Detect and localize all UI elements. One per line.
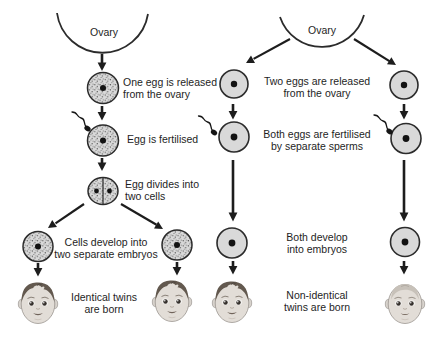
embryo-left-icon	[23, 232, 53, 262]
arrow-embryo-to-baby-left2	[173, 262, 182, 276]
step-both-eggs-fertilised-label: Both eggs are fertilised by separate spe…	[263, 128, 370, 152]
arrow-twocell-to-embryo-left	[48, 204, 84, 228]
egg1-released-icon	[220, 70, 248, 98]
twin-formation-diagram: Ovary Ovary One egg is released from the…	[0, 0, 444, 340]
egg-fertilised-icon	[88, 125, 119, 156]
two-cell-stage-icon	[88, 178, 118, 205]
arrow-ovary-to-egg-far-right	[354, 39, 396, 65]
arrow-egg-to-fertilised-far-right	[400, 104, 409, 120]
arrow-fertilised-to-embryo-mid	[229, 160, 238, 222]
baby-face-identical-left	[18, 282, 57, 323]
arrow-egg-to-fertilised-left	[98, 106, 107, 121]
arrow-embryo-to-baby-mid	[229, 261, 238, 275]
arrow-fertilised-to-twocell	[98, 158, 107, 171]
ovary-left-label: Ovary	[90, 26, 118, 38]
identical-twins-born-label: Identical twins are born	[71, 291, 137, 315]
sperm-icon-left	[72, 112, 92, 133]
arrow-embryo-to-baby-left1	[34, 263, 43, 277]
diagram-canvas	[0, 0, 444, 340]
sperm-icon-mid	[199, 116, 219, 137]
arrow-ovary-to-egg-mid	[246, 39, 290, 63]
baby-face-identical-right	[152, 280, 191, 321]
egg1-fertilised-icon	[219, 122, 249, 152]
embryo1-icon	[217, 228, 247, 258]
step-two-eggs-released-label: Two eggs are released from the ovary	[264, 75, 370, 99]
step-egg-fertilised-label: Egg is fertilised	[127, 133, 198, 145]
step-both-develop-label: Both develop into embryos	[286, 231, 347, 255]
step-cells-develop-label: Cells develop into two separate embryos	[54, 236, 157, 260]
arrow-embryo-to-baby-far-right	[400, 261, 409, 275]
embryo2-icon	[391, 228, 420, 257]
baby-face-nonidentical-left	[212, 281, 251, 322]
egg-released-icon	[88, 73, 119, 104]
embryo-right-icon	[162, 230, 192, 260]
egg2-fertilised-icon	[391, 124, 421, 154]
arrow-ovary-to-egg-left	[98, 54, 107, 71]
arrow-egg-to-fertilised-mid	[229, 104, 238, 120]
ovary-right-label: Ovary	[308, 24, 336, 36]
step-one-egg-released-label: One egg is released from the ovary	[123, 76, 217, 100]
nonidentical-twins-born-label: Non-identical twins are born	[284, 289, 350, 313]
sperm-icon-right	[374, 115, 394, 136]
egg2-released-icon	[390, 71, 418, 99]
baby-face-nonidentical-right	[385, 284, 424, 324]
arrow-twocell-to-embryo-right	[121, 204, 163, 229]
step-egg-divides-label: Egg divides into two cells	[125, 178, 199, 202]
arrow-fertilised-to-embryo-far-right	[400, 160, 409, 222]
